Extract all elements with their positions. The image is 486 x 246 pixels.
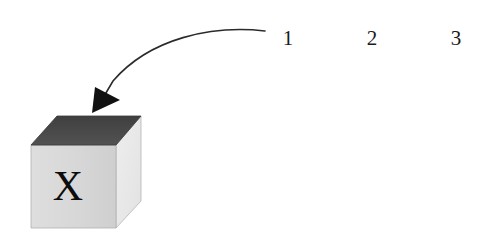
- column-number-3: 3: [441, 28, 471, 49]
- column-number-2: 2: [357, 28, 387, 49]
- column-number-1: 1: [273, 28, 303, 49]
- arrow-head: [92, 87, 120, 113]
- figure-canvas: X 1 2 3: [0, 0, 486, 246]
- cube-face-letter: X: [46, 165, 90, 207]
- figure-graphics: [0, 0, 486, 246]
- arrow-shaft: [100, 30, 265, 103]
